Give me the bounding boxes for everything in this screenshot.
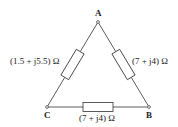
wire-a-c-bottom [47,78,65,108]
node-a-terminal [97,21,100,24]
impedance-label-cb: (7 + j4) Ω [79,114,115,123]
impedance-label-ac: (1.5 + j5.5) Ω [10,57,60,66]
impedance-label-ab: (7 + j4) Ω [132,57,168,66]
wire-a-b-bottom [131,78,149,108]
node-label-b: B [146,111,152,120]
node-b-terminal [148,106,151,109]
wire-a-b-top [98,22,116,52]
wire-a-c-top [80,22,98,52]
node-c-terminal [46,106,49,109]
node-label-a: A [95,9,102,18]
resistor-ac [61,49,84,79]
node-label-c: C [44,111,51,120]
resistor-cb [83,103,113,112]
